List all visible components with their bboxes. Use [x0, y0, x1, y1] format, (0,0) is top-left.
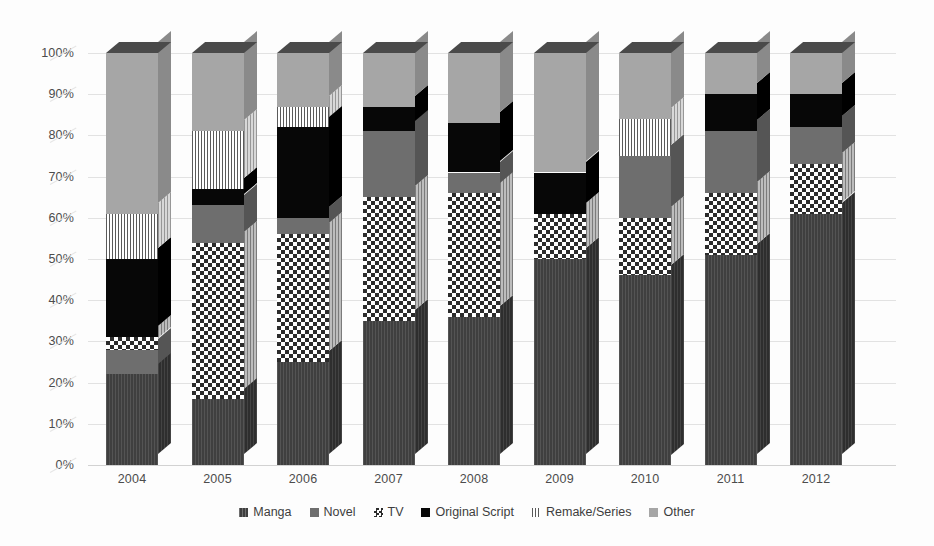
bar-segment-manga-2006[interactable] — [277, 362, 329, 465]
bar-segment-novel-2004[interactable] — [106, 350, 158, 375]
bar-segment-side-face — [244, 377, 257, 454]
bar-segment-side-face — [244, 109, 257, 178]
bar-segment-manga-2007[interactable] — [363, 321, 415, 465]
bar-group-2008[interactable] — [448, 53, 500, 465]
bar-segment-side-face — [329, 105, 342, 207]
legend-item-other[interactable]: Other — [649, 505, 694, 519]
bar-segment-remake-series-2005[interactable] — [192, 131, 244, 189]
gridline — [88, 465, 896, 466]
bar-group-2009[interactable] — [534, 53, 586, 465]
bar-segment-manga-2010[interactable] — [619, 275, 671, 465]
bar-group-2004[interactable] — [106, 53, 158, 465]
bar-segment-side-face — [244, 221, 257, 388]
legend-item-label: Novel — [324, 505, 356, 519]
bar-segment-original-script-2005[interactable] — [192, 189, 244, 205]
bar-stack — [705, 53, 757, 465]
bar-segment-side-face — [415, 109, 428, 186]
legend-item-tv[interactable]: TV — [374, 505, 404, 519]
bar-segment-tv-2005[interactable] — [192, 243, 244, 400]
bar-segment-side-face — [671, 134, 684, 207]
bar-stack — [619, 53, 671, 465]
bar-group-2006[interactable] — [277, 53, 329, 465]
bar-segment-manga-2005[interactable] — [192, 399, 244, 465]
bar-stack — [790, 53, 842, 465]
bar-segment-side-face — [329, 340, 342, 454]
bar-segment-novel-2008[interactable] — [448, 173, 500, 194]
bar-segment-novel-2012[interactable] — [790, 127, 842, 164]
bar-segment-remake-series-2004[interactable] — [106, 214, 158, 259]
bar-segment-side-face — [415, 31, 428, 95]
bar-segment-remake-series-2010[interactable] — [619, 119, 671, 156]
chart-root: 0%10%20%30%40%50%60%70%80%90%100% 200420… — [0, 0, 934, 546]
bar-segment-side-face — [842, 192, 855, 454]
bar-segment-tv-2004[interactable] — [106, 337, 158, 349]
bar-segment-tv-2007[interactable] — [363, 197, 415, 321]
legend-item-novel[interactable]: Novel — [310, 505, 356, 519]
x-axis-tick-label-2004: 2004 — [97, 472, 167, 486]
bar-segment-other-2006[interactable] — [277, 53, 329, 107]
bar-segment-other-2010[interactable] — [619, 53, 671, 119]
bar-segment-manga-2012[interactable] — [790, 214, 842, 465]
bar-group-2005[interactable] — [192, 53, 244, 465]
bar-segment-side-face — [158, 237, 171, 326]
bar-segment-side-face — [329, 31, 342, 95]
bar-stack — [448, 53, 500, 465]
bar-segment-side-face — [415, 175, 428, 310]
original-script-swatch-icon — [421, 508, 430, 517]
bar-segment-side-face — [415, 299, 428, 454]
bar-segment-tv-2011[interactable] — [705, 193, 757, 255]
x-axis-tick-label-2008: 2008 — [439, 472, 509, 486]
legend-item-label: Other — [663, 505, 694, 519]
x-axis-tick-label-2012: 2012 — [781, 472, 851, 486]
bar-segment-side-face — [158, 353, 171, 455]
bar-segment-original-script-2012[interactable] — [790, 94, 842, 127]
legend-item-original-script[interactable]: Original Script — [421, 505, 514, 519]
bar-group-2012[interactable] — [790, 53, 842, 465]
bar-series-container — [88, 53, 896, 465]
remake-series-swatch-icon — [532, 508, 541, 517]
bar-segment-tv-2009[interactable] — [534, 214, 586, 259]
bar-segment-tv-2006[interactable] — [277, 234, 329, 362]
y-axis: 0%10%20%30%40%50%60%70%80%90%100% — [0, 0, 88, 546]
bar-segment-novel-2010[interactable] — [619, 156, 671, 218]
legend-item-manga[interactable]: Manga — [239, 505, 291, 519]
bar-segment-manga-2009[interactable] — [534, 259, 586, 465]
bar-segment-other-2005[interactable] — [192, 53, 244, 131]
bar-segment-remake-series-2006[interactable] — [277, 107, 329, 128]
bar-segment-side-face — [671, 254, 684, 454]
bar-segment-other-2009[interactable] — [534, 53, 586, 172]
bar-segment-tv-2008[interactable] — [448, 193, 500, 317]
bar-segment-novel-2011[interactable] — [705, 131, 757, 193]
bar-segment-other-2012[interactable] — [790, 53, 842, 94]
legend-item-label: Original Script — [435, 505, 514, 519]
bar-segment-other-2011[interactable] — [705, 53, 757, 94]
bar-segment-other-2007[interactable] — [363, 53, 415, 107]
legend-item-label: Remake/Series — [546, 505, 631, 519]
bar-segment-novel-2006[interactable] — [277, 218, 329, 234]
x-axis-tick-label-2011: 2011 — [696, 472, 766, 486]
bar-segment-novel-2007[interactable] — [363, 131, 415, 197]
bar-segment-novel-2005[interactable] — [192, 205, 244, 242]
bar-segment-original-script-2007[interactable] — [363, 107, 415, 132]
bar-group-2007[interactable] — [363, 53, 415, 465]
legend-item-remake-series[interactable]: Remake/Series — [532, 505, 631, 519]
bar-segment-tv-2010[interactable] — [619, 218, 671, 276]
bar-segment-original-script-2009[interactable] — [534, 173, 586, 214]
bar-segment-side-face — [158, 31, 171, 203]
bar-segment-original-script-2011[interactable] — [705, 94, 757, 131]
bar-segment-manga-2004[interactable] — [106, 374, 158, 465]
bar-stack — [534, 53, 586, 465]
bar-segment-manga-2011[interactable] — [705, 255, 757, 465]
bar-segment-original-script-2004[interactable] — [106, 259, 158, 337]
bar-segment-tv-2012[interactable] — [790, 164, 842, 213]
bar-segment-other-2004[interactable] — [106, 53, 158, 214]
bar-group-2011[interactable] — [705, 53, 757, 465]
bar-group-2010[interactable] — [619, 53, 671, 465]
bar-segment-original-script-2006[interactable] — [277, 127, 329, 218]
bar-segment-manga-2008[interactable] — [448, 317, 500, 465]
bar-stack — [363, 53, 415, 465]
bar-segment-original-script-2008[interactable] — [448, 123, 500, 172]
plot-area — [88, 53, 896, 465]
bar-segment-other-2008[interactable] — [448, 53, 500, 123]
x-axis-tick-label-2006: 2006 — [268, 472, 338, 486]
